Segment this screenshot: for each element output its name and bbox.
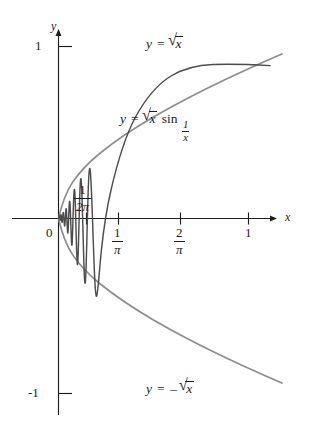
fraction-one-over-2pi: 1 2π [74, 183, 91, 214]
fraction-numerator: 1 [182, 119, 190, 130]
figure-sqrt-x-sin-one-over-x: y x 1 -1 0 1 2π 1 π 2 π 1 y = √ x [0, 0, 311, 427]
y-tick-label-neg-1: -1 [28, 386, 39, 399]
x-tick-label-two-over-pi: 2 π [174, 224, 185, 257]
fraction-denominator: 2π [74, 198, 91, 214]
fraction-denominator: π [112, 241, 123, 257]
label-equals: = [129, 111, 140, 126]
curve-label-sqrt-x-sin-one-over-x: y = √ x sin 1 x [120, 110, 191, 143]
radical-sqrt: √ x [181, 380, 193, 395]
label-equals: = [155, 36, 166, 51]
radical-sqrt: √ x [171, 35, 183, 50]
fraction-one-over-x: 1 x [182, 119, 190, 142]
fraction-numerator: 1 [112, 226, 123, 241]
label-lhs: y [120, 111, 126, 126]
origin-label: 0 [46, 226, 53, 239]
y-axis-name: y [51, 20, 56, 32]
fraction-one-over-pi: 1 π [112, 226, 123, 257]
curve-label-sqrt-x: y = √ x [146, 35, 183, 50]
y-tick-label-1: 1 [35, 39, 42, 52]
fraction-numerator: 1 [77, 183, 88, 198]
label-equals: = [155, 381, 166, 396]
sine-function-name: sin [160, 111, 177, 126]
fraction-denominator: π [174, 241, 185, 257]
label-lhs: y [146, 36, 152, 51]
label-lhs: y [146, 381, 152, 396]
fraction-numerator: 2 [174, 226, 185, 241]
curve-lower-envelope [59, 219, 283, 384]
surd-glyph: √ [142, 107, 151, 123]
surd-glyph: √ [179, 377, 188, 393]
radical-sqrt: √ x [145, 110, 157, 125]
axes-group [12, 30, 276, 415]
x-axis-name: x [285, 211, 290, 223]
surd-glyph: √ [168, 32, 177, 48]
x-tick-label-one-over-pi: 1 π [112, 224, 123, 257]
label-minus-sign: – [170, 381, 177, 396]
curve-label-negative-sqrt-x: y = – √ x [146, 380, 194, 395]
fraction-denominator: x [182, 131, 189, 143]
x-tick-label-one-over-2pi: 1 2π [74, 181, 91, 214]
plot-canvas [0, 0, 311, 427]
x-tick-label-one: 1 [245, 226, 252, 239]
fraction-two-over-pi: 2 π [174, 226, 185, 257]
